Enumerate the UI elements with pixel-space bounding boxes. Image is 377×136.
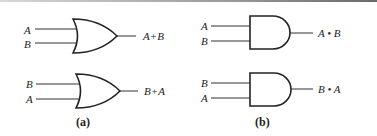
panel-caption: (a) bbox=[76, 115, 90, 129]
output-label: B • A bbox=[318, 83, 341, 95]
and-gate-1: A B A • B bbox=[200, 16, 341, 49]
or-gate-1: A B A+B bbox=[23, 19, 164, 53]
and-gate-2: B A B • A bbox=[200, 73, 341, 106]
input-label: B bbox=[26, 78, 33, 90]
input-label: A bbox=[200, 20, 208, 32]
input-label: A bbox=[25, 93, 33, 105]
output-label: A+B bbox=[142, 30, 164, 42]
or-gate-icon bbox=[73, 19, 117, 53]
input-label: A bbox=[200, 92, 208, 104]
or-gate-icon bbox=[76, 74, 120, 108]
and-gate-icon bbox=[250, 16, 290, 49]
input-label: B bbox=[201, 35, 208, 47]
output-label: B+A bbox=[144, 85, 165, 97]
panel-a: A B A+B B A B+A (a) bbox=[23, 19, 165, 129]
or-gate-2: B A B+A bbox=[25, 74, 165, 108]
input-label: B bbox=[201, 77, 208, 89]
input-label: A bbox=[23, 24, 31, 36]
logic-gates-diagram: A B A+B B A B+A (a) A B bbox=[0, 0, 377, 136]
output-label: A • B bbox=[317, 27, 341, 39]
panel-caption: (b) bbox=[255, 115, 270, 129]
input-label: B bbox=[24, 38, 31, 50]
and-gate-icon bbox=[250, 73, 291, 106]
panel-b: A B A • B B A B • A (b) bbox=[200, 16, 341, 129]
